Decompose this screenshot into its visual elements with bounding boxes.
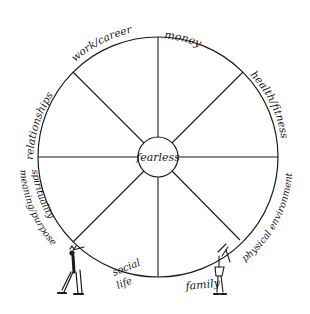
center-label: fearless [135,151,180,164]
label-physical-environment: physical environment [239,172,294,264]
man-figure [58,246,84,294]
label-work-career: work/career [68,23,133,64]
wheel-of-life-diagram: fearless work/career money health/fitnes… [0,0,310,314]
label-money: money [164,28,204,50]
label-health-fitness: health/fitness [249,68,292,140]
label-family: family [184,276,221,293]
label-relationships: relationships [23,89,55,160]
label-life: life [115,275,134,291]
